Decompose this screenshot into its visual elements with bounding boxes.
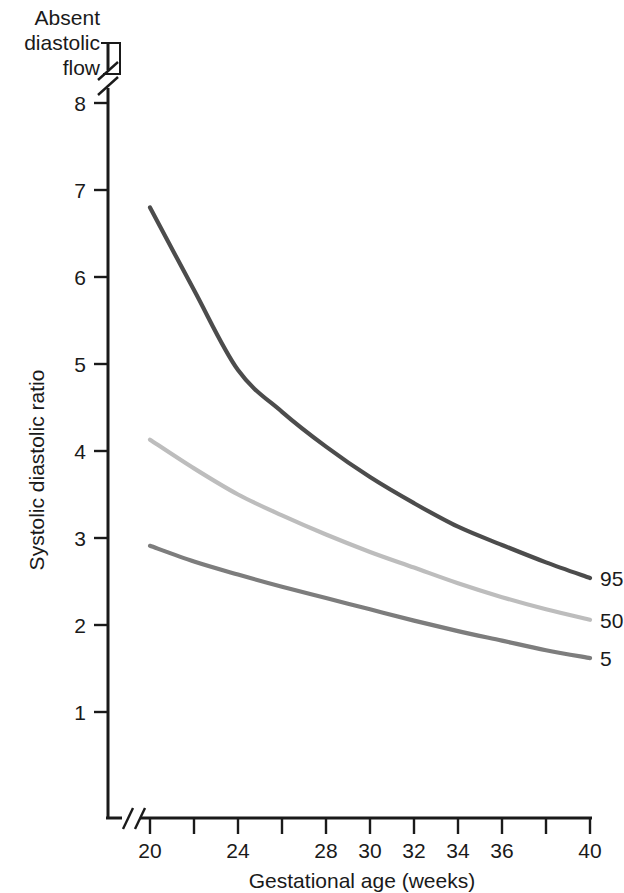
y-tick-label-2: 2 <box>74 614 86 637</box>
x-axis: 20 24 28 30 32 34 36 40 Gestational age … <box>106 808 602 892</box>
y-axis: 8 7 6 5 4 3 2 1 Systolic diastolic ratio <box>25 44 118 818</box>
x-tick-label-40: 40 <box>578 839 601 862</box>
y-axis-title: Systolic diastolic ratio <box>25 370 48 571</box>
annotation-line-1: Absent <box>35 6 101 29</box>
annotation-line-3: flow <box>63 56 101 79</box>
series-labels: 95 50 5 <box>600 567 623 670</box>
y-tick-label-5: 5 <box>74 353 86 376</box>
x-tick-label-24: 24 <box>226 839 250 862</box>
series-label-5: 5 <box>600 647 612 670</box>
series-label-50: 50 <box>600 609 623 632</box>
annotation-line-2: diastolic <box>24 31 100 54</box>
y-tick-label-3: 3 <box>74 527 86 550</box>
x-tick-label-34: 34 <box>446 839 470 862</box>
x-tick-label-28: 28 <box>314 839 337 862</box>
chart-svg: Absent diastolic flow 8 7 <box>0 0 624 893</box>
x-tick-label-30: 30 <box>358 839 381 862</box>
x-tick-label-36: 36 <box>490 839 513 862</box>
y-tick-label-6: 6 <box>74 266 86 289</box>
chart-figure: Absent diastolic flow 8 7 <box>0 0 624 893</box>
x-tick-label-32: 32 <box>402 839 425 862</box>
curve-percentile-50 <box>150 440 590 620</box>
y-tick-label-8: 8 <box>74 92 86 115</box>
x-axis-title: Gestational age (weeks) <box>249 869 475 892</box>
curve-percentile-95 <box>150 207 590 578</box>
data-curves <box>150 207 590 658</box>
y-tick-label-7: 7 <box>74 179 86 202</box>
series-label-95: 95 <box>600 567 623 590</box>
y-tick-label-4: 4 <box>74 440 86 463</box>
x-tick-label-20: 20 <box>138 839 161 862</box>
absent-diastolic-flow-annotation: Absent diastolic flow <box>24 6 120 79</box>
x-axis-break-mark-left <box>123 808 133 829</box>
y-tick-label-1: 1 <box>74 701 86 724</box>
